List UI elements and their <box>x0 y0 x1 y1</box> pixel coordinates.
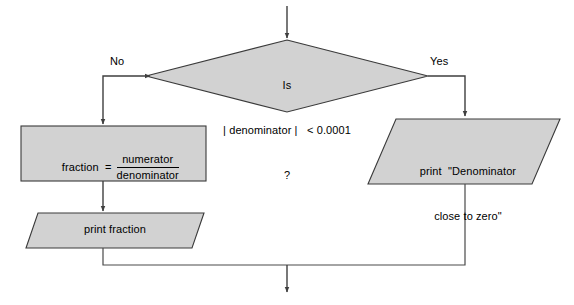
edge-left-merge <box>103 248 287 265</box>
edge-yes-branch <box>428 76 465 116</box>
decision-text-line2: | denominator | < 0.0001 <box>147 123 427 138</box>
fraction-bar <box>117 167 179 168</box>
assignment-fraction: numerator denominator <box>117 153 179 182</box>
assignment-text: fraction = numerator denominator <box>22 140 206 195</box>
edge-label-no: No <box>110 55 124 68</box>
flowchart-canvas: No Yes Is | denominator | < 0.0001 ? fra… <box>0 0 574 305</box>
assignment-numerator: numerator <box>122 153 173 166</box>
print-warning-text: print "Denominator close to zero" <box>398 134 538 254</box>
edge-label-yes: Yes <box>430 55 448 68</box>
print-fraction-text: print fraction <box>40 223 190 236</box>
print-warning-line2: close to zero" <box>398 209 538 224</box>
edge-no-branch <box>103 76 146 124</box>
print-warning-line1: print "Denominator <box>398 164 538 179</box>
assignment-denominator: denominator <box>117 169 179 182</box>
assignment-lhs: fraction = <box>62 161 112 174</box>
assignment-expression: fraction = numerator denominator <box>62 153 179 182</box>
decision-text-line1: Is <box>147 78 427 93</box>
